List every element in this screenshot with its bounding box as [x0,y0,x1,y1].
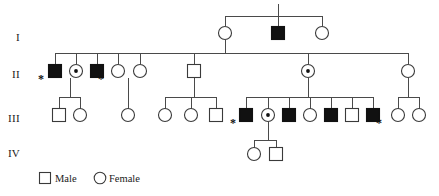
individual-iii-12[interactable] [346,109,359,122]
individual-iii-2[interactable] [74,109,87,122]
individual-ii-6[interactable] [188,65,201,78]
generation-labels-group: IIIIIIIV [8,31,20,159]
individual-ii-2[interactable] [70,65,83,78]
unaffected-male-square [188,65,201,78]
carrier-dot-icon [306,69,310,73]
asterisk-marker-icon: * [230,116,236,130]
individual-symbols-group [49,27,426,161]
individual-iii-15[interactable] [413,109,426,122]
unaffected-female-circle [413,109,426,122]
individual-iii-10[interactable] [304,109,317,122]
generation-label-iii: III [8,112,20,124]
unaffected-female-circle [219,27,232,40]
legend-male-label: Male [55,173,77,184]
asterisk-marker-icon: * [38,72,44,86]
carrier-dot-icon [74,69,78,73]
unaffected-female-circle [392,109,405,122]
individual-iii-8[interactable] [262,109,275,122]
legend-male-square-icon [40,173,51,184]
individual-ii-7[interactable] [302,65,315,78]
unaffected-female-circle [316,27,329,40]
unaffected-female-circle [248,148,261,161]
generation-label-ii: II [12,68,20,80]
affected-male-square [272,27,285,40]
individual-iii-5[interactable] [185,109,198,122]
unaffected-female-circle [112,65,125,78]
affected-male-square [283,109,296,122]
unaffected-male-square [346,109,359,122]
unaffected-male-square [210,109,223,122]
generation-label-i: I [16,31,20,43]
carrier-dot-icon [266,113,270,117]
individual-i-2[interactable] [272,27,285,40]
individual-iii-14[interactable] [392,109,405,122]
individual-ii-1[interactable] [49,65,62,78]
pedigree-chart-figure: **** IIIIIIIV MaleFemale [0,0,439,196]
unaffected-female-circle [134,65,147,78]
unaffected-male-square [270,148,283,161]
individual-iii-4[interactable] [159,109,172,122]
individual-iii-7[interactable] [240,109,253,122]
unaffected-female-circle [304,109,317,122]
affected-male-square [49,65,62,78]
asterisk-marker-icon: * [376,116,382,130]
legend-female-label: Female [109,173,140,184]
individual-iii-6[interactable] [210,109,223,122]
unaffected-female-circle [159,109,172,122]
unaffected-female-circle [185,109,198,122]
individual-ii-4[interactable] [112,65,125,78]
individual-iii-3[interactable] [122,109,135,122]
asterisk-marker-icon: * [98,72,104,86]
affected-male-square [240,109,253,122]
individual-iv-2[interactable] [270,148,283,161]
individual-iv-1[interactable] [248,148,261,161]
unaffected-female-circle [122,109,135,122]
connector-lines-group [55,4,419,148]
individual-i-3[interactable] [316,27,329,40]
generation-label-iv: IV [8,147,20,159]
affected-male-square [325,109,338,122]
unaffected-female-circle [74,109,87,122]
unaffected-male-square [53,109,66,122]
individual-iii-9[interactable] [283,109,296,122]
legend-group: MaleFemale [40,172,141,184]
pedigree-canvas: **** IIIIIIIV MaleFemale [0,0,439,196]
legend-female-circle-icon [94,172,106,184]
unaffected-female-circle [402,65,415,78]
individual-ii-8[interactable] [402,65,415,78]
individual-iii-1[interactable] [53,109,66,122]
individual-ii-5[interactable] [134,65,147,78]
individual-i-1[interactable] [219,27,232,40]
individual-iii-11[interactable] [325,109,338,122]
